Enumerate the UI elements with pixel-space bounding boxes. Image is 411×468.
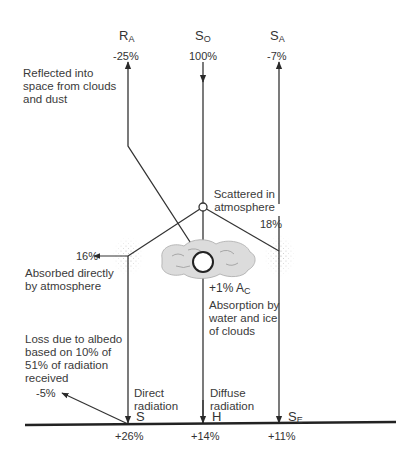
reflected-label: Reflected into space from clouds and dus… xyxy=(23,67,116,106)
ground-line xyxy=(25,422,396,425)
se-symbol: SE xyxy=(288,409,303,425)
diffuse-value: +14% xyxy=(191,430,219,442)
scatter-right-value: 18% xyxy=(260,218,282,230)
absorbed-label: Absorbed directly by atmosphere xyxy=(25,267,114,293)
scattered-label: Scattered in atmosphere xyxy=(209,188,275,214)
se-value: +11% xyxy=(268,430,296,442)
albedo-value: -5% xyxy=(36,387,56,399)
ra-symbol: RA xyxy=(119,28,134,44)
so-value: 100% xyxy=(189,50,217,62)
cloud-node xyxy=(193,252,213,272)
albedo-label: Loss due to albedo based on 10% of 51% o… xyxy=(25,333,122,385)
so-symbol: SO xyxy=(195,28,211,44)
cloud-value: +1% AC xyxy=(209,281,251,296)
h-symbol: H xyxy=(212,409,221,424)
direct-value: +26% xyxy=(115,430,143,442)
s-symbol: S xyxy=(136,409,145,424)
ra-value: -25% xyxy=(113,50,139,62)
sa-value: -7% xyxy=(267,50,287,62)
scatter-node xyxy=(199,203,207,211)
albedo-loss-arrow xyxy=(62,393,128,424)
sa-symbol: SA xyxy=(270,28,285,44)
cloud-absorption-label: Absorption by water and ice of clouds xyxy=(209,299,279,338)
absorbed-value: 16% xyxy=(76,250,98,262)
